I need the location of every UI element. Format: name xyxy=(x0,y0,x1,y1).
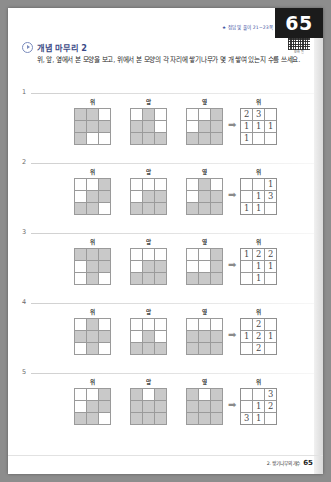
answer-cell-value[interactable]: 1 xyxy=(253,273,264,284)
view-side-panel: 옆 xyxy=(186,308,223,355)
view-top-label: 위 xyxy=(74,98,111,106)
answer-grid[interactable]: 231111 xyxy=(240,108,277,145)
answer-cell-value[interactable]: 3 xyxy=(265,389,276,400)
answer-cell-value[interactable]: 1 xyxy=(241,331,252,342)
view-cell-empty xyxy=(187,249,198,260)
arrow-icon: ➡ xyxy=(228,330,236,340)
answer-cell-value[interactable]: 1 xyxy=(241,249,252,260)
answer-cell-value[interactable]: 1 xyxy=(253,191,264,202)
view-cell-empty xyxy=(75,179,86,190)
view-cell-filled xyxy=(211,273,222,284)
problem-number: 2 xyxy=(22,158,26,166)
answer-cell-value[interactable]: 1 xyxy=(265,331,276,342)
view-cell-filled xyxy=(75,413,86,424)
view-front-panel: 앞 xyxy=(130,308,167,355)
answer-cell-empty[interactable] xyxy=(265,109,276,120)
answer-grid[interactable]: 122111 xyxy=(240,248,277,285)
view-cell-filled xyxy=(99,191,110,202)
answer-cell-value[interactable]: 1 xyxy=(253,413,264,424)
view-grid-top xyxy=(74,108,111,145)
answer-cell-empty[interactable] xyxy=(241,261,252,272)
view-top-panel: 위 xyxy=(74,308,111,355)
answer-cell-value[interactable]: 1 xyxy=(253,121,264,132)
answer-cell-value[interactable]: 1 xyxy=(253,401,264,412)
answer-cell-value[interactable]: 2 xyxy=(241,109,252,120)
view-cell-filled xyxy=(211,203,222,214)
answer-cell-empty[interactable] xyxy=(253,389,264,400)
view-cell-empty xyxy=(87,389,98,400)
view-front-label: 앞 xyxy=(130,98,167,106)
answer-cell-empty[interactable] xyxy=(241,389,252,400)
view-cell-empty xyxy=(75,261,86,272)
answer-cell-value[interactable]: 1 xyxy=(253,203,264,214)
answer-grid[interactable]: 21212 xyxy=(240,318,277,355)
problem-divider xyxy=(31,303,314,304)
view-front-panel: 앞 xyxy=(130,168,167,215)
answer-cell-empty[interactable] xyxy=(241,343,252,354)
answer-cell-empty[interactable] xyxy=(265,413,276,424)
view-cell-empty xyxy=(75,319,86,330)
view-cell-empty xyxy=(75,343,86,354)
answer-cell-empty[interactable] xyxy=(241,401,252,412)
answer-grid[interactable]: 11311 xyxy=(240,178,277,215)
answer-cell-value[interactable]: 1 xyxy=(241,133,252,144)
answer-cell-value[interactable]: 1 xyxy=(265,121,276,132)
answer-cell-value[interactable]: 2 xyxy=(253,249,264,260)
footer-chapter-note: 2. 쌓기나무의 개수 xyxy=(267,459,300,466)
arrow-icon: ➡ xyxy=(228,260,236,270)
view-cell-filled xyxy=(87,249,98,260)
answer-cell-value[interactable]: 3 xyxy=(265,191,276,202)
view-grid-top xyxy=(74,318,111,355)
answer-cell-value[interactable]: 1 xyxy=(265,261,276,272)
problem-number: 4 xyxy=(22,298,26,306)
answer-cell-empty[interactable] xyxy=(265,273,276,284)
answer-grid[interactable]: 31231 xyxy=(240,388,277,425)
answer-cell-value[interactable]: 1 xyxy=(265,179,276,190)
answer-cell-empty[interactable] xyxy=(265,133,276,144)
answer-cell-value[interactable]: 1 xyxy=(241,203,252,214)
view-cell-filled xyxy=(131,121,142,132)
answer-cell-value[interactable]: 2 xyxy=(265,249,276,260)
answer-cell-empty[interactable] xyxy=(253,179,264,190)
answer-cell-value[interactable]: 3 xyxy=(241,413,252,424)
answer-cell-empty[interactable] xyxy=(241,319,252,330)
problem-panels: 위앞옆➡위21212 xyxy=(22,308,314,364)
answer-cell-empty[interactable] xyxy=(265,319,276,330)
view-cell-filled xyxy=(211,249,222,260)
view-side-panel: 옆 xyxy=(186,238,223,285)
view-cell-empty xyxy=(131,261,142,272)
answer-cell-value[interactable]: 2 xyxy=(253,343,264,354)
view-cell-filled xyxy=(187,331,198,342)
view-top-panel: 위 xyxy=(74,378,111,425)
view-cell-filled xyxy=(143,343,154,354)
problem-panels: 위앞옆➡위231111 xyxy=(22,98,314,154)
view-cell-filled xyxy=(155,133,166,144)
view-cell-filled xyxy=(75,121,86,132)
view-cell-filled xyxy=(87,121,98,132)
view-cell-empty xyxy=(155,109,166,120)
view-cell-filled xyxy=(87,109,98,120)
problem-divider xyxy=(31,93,314,94)
answer-cell-value[interactable]: 1 xyxy=(253,261,264,272)
view-cell-filled xyxy=(131,133,142,144)
answer-cell-empty[interactable] xyxy=(265,343,276,354)
view-side-panel: 옆 xyxy=(186,98,223,145)
view-top-label: 위 xyxy=(74,168,111,176)
view-cell-filled xyxy=(75,133,86,144)
view-cell-filled xyxy=(99,121,110,132)
view-cell-filled xyxy=(187,401,198,412)
answer-cell-empty[interactable] xyxy=(265,203,276,214)
answer-cell-empty[interactable] xyxy=(241,191,252,202)
answer-cell-value[interactable]: 2 xyxy=(265,401,276,412)
view-cell-filled xyxy=(155,413,166,424)
view-cell-filled xyxy=(87,331,98,342)
answer-cell-empty[interactable] xyxy=(253,133,264,144)
view-grid-side xyxy=(186,248,223,285)
answer-cell-value[interactable]: 1 xyxy=(241,121,252,132)
answer-cell-value[interactable]: 2 xyxy=(253,319,264,330)
answer-cell-empty[interactable] xyxy=(241,179,252,190)
view-cell-empty xyxy=(87,133,98,144)
answer-cell-value[interactable]: 2 xyxy=(253,331,264,342)
answer-cell-empty[interactable] xyxy=(241,273,252,284)
answer-cell-value[interactable]: 3 xyxy=(253,109,264,120)
